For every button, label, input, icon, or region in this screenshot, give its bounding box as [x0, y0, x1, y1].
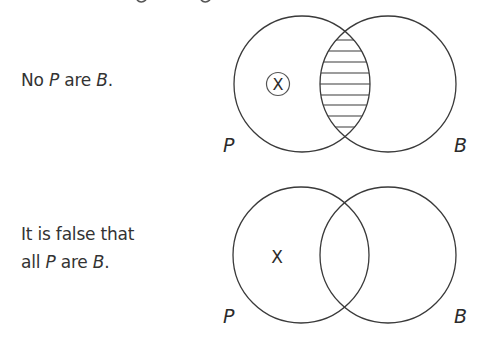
label-b: B [454, 305, 467, 327]
label-b: B [454, 134, 467, 156]
marker-x: X [273, 75, 284, 94]
venn-diagram-not-all-p-are-b: X P B [223, 187, 467, 327]
venn-diagrams: X P B X P B [0, 0, 481, 346]
cropped-text-fragment [137, 0, 210, 2]
venn-diagram-no-p-are-b: X P B [223, 16, 467, 156]
circle-b [320, 187, 456, 323]
marker-x: X [271, 247, 283, 267]
circle-p [233, 187, 369, 323]
label-p: P [223, 305, 235, 327]
label-p: P [223, 134, 235, 156]
